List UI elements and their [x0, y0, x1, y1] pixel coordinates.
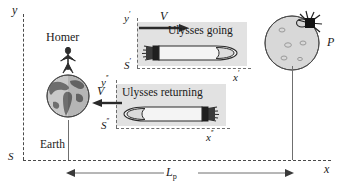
earth-globe [44, 72, 92, 120]
s-prime-frame-label: S′ [124, 58, 131, 71]
earth-label: Earth [40, 139, 65, 151]
x-prime-axis-label: x′ [233, 70, 239, 83]
homer-label: Homer [46, 31, 79, 43]
s-prime-frame-x-axis [137, 68, 251, 69]
s-dprime-frame-label: S′′ [101, 118, 109, 131]
velocity-going-label: V [160, 10, 167, 22]
physics-diagram: y x S Homer Earth [0, 0, 342, 192]
planet-p [262, 10, 324, 72]
x-axis-label: x [324, 163, 329, 175]
velocity-returning-label: V [97, 85, 104, 97]
distance-label: Lp [166, 166, 177, 182]
s-frame-y-axis [23, 14, 24, 160]
planet-position-tick [292, 66, 293, 160]
rocket-returning-label: Ulysses returning [122, 87, 203, 99]
earth-position-tick [68, 120, 69, 160]
velocity-arrow-returning [92, 97, 122, 109]
y-axis-label: y [12, 4, 17, 16]
x-dprime-axis-label: x′′ [206, 130, 213, 143]
y-prime-axis-label: y′ [124, 11, 130, 24]
planet-label: P [327, 36, 334, 48]
s-frame-x-axis [23, 160, 331, 161]
rocket-returning [119, 104, 219, 124]
rocket-going [142, 43, 242, 63]
s-frame-origin-label: S [8, 151, 14, 162]
rocket-going-label: Ulysses going [168, 25, 233, 37]
distance-dimension-arrow [66, 166, 294, 180]
s-prime-frame-y-axis [137, 18, 138, 68]
